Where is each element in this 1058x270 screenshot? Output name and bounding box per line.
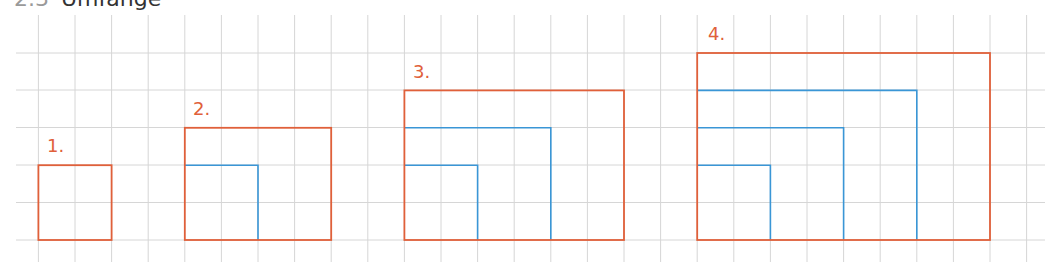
figure-label-4: 4. bbox=[708, 25, 725, 43]
square-grid bbox=[16, 15, 1045, 262]
grid-diagram bbox=[0, 0, 1058, 270]
figure-label-2: 2. bbox=[193, 100, 210, 118]
figure-label-1: 1. bbox=[47, 137, 64, 155]
figure-label-3: 3. bbox=[413, 63, 430, 81]
